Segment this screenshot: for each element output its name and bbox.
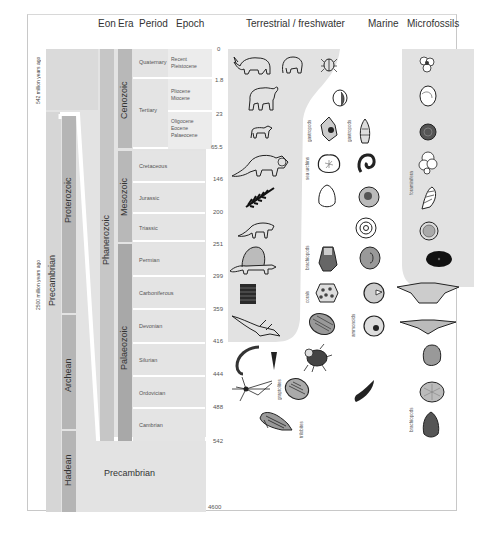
ammonite-spiral-icon (354, 215, 378, 241)
phanerozoic-expansion-area (46, 49, 98, 110)
period-label: Ordovician (139, 390, 165, 396)
label-2500-million: 2500 million years ago (35, 250, 41, 320)
millipede-icon (233, 344, 261, 376)
dimetrodon-icon (228, 245, 278, 277)
hadean-label: Hadean (63, 445, 73, 495)
period-label: Quaternary (139, 59, 167, 65)
tick-488: 488 (213, 404, 223, 410)
header-era: Era (118, 18, 134, 29)
foraminifera-2-icon (418, 84, 438, 108)
tick-299: 299 (213, 273, 223, 279)
foraminifera-5-icon (418, 185, 438, 211)
label-foraminifera: foraminifera (409, 165, 414, 195)
period-jurassic: Jurassic (133, 183, 205, 214)
epoch-miocene: Miocene (168, 95, 212, 102)
dinosaur-icon (236, 218, 276, 240)
epoch-pliocene: Pliocene (168, 88, 212, 95)
label-gastropods-2: gastropods (347, 112, 352, 142)
fish-amphibian-icon (230, 312, 282, 340)
palaeozoic-label: Palaeozoic (119, 320, 129, 375)
label-graptolites: graptolites (277, 370, 282, 400)
header-microfossils: Microfossils (407, 18, 459, 29)
orthocone-icon (352, 378, 378, 404)
period-silurian: Silurian (133, 344, 205, 377)
period-cretaceous: Cretaceous (133, 151, 205, 183)
trilobite-fossil-icon (307, 311, 337, 337)
brachiopod-micro-3-icon (420, 410, 442, 440)
epochs-quaternary: Recent Pleistocene (168, 49, 212, 79)
epoch-recent: Recent (168, 56, 212, 63)
period-label: Triassic (139, 225, 158, 231)
ammonite-4-icon (362, 313, 386, 339)
foraminifera-7-icon (425, 250, 453, 268)
phanerozoic-label: Phanerozoic (101, 195, 111, 285)
tick-416: 416 (213, 338, 223, 344)
tick-0: 0 (217, 46, 220, 52)
brachiopod-wide-2-icon (398, 318, 458, 336)
header-eon: Eon (98, 18, 116, 29)
period-cambrian: Cambrian (133, 409, 205, 441)
period-label: Tertiary (139, 107, 157, 113)
brachiopod-micro-2-icon (418, 380, 446, 404)
period-label: Cretaceous (139, 163, 167, 169)
mesozoic-label: Mesozoic (119, 172, 129, 222)
foraminifera-4-icon (417, 150, 439, 176)
epochs-tertiary-lower: Oligocene Eocene Palaeocene (168, 112, 212, 149)
label-brachiopods: brachiopods (305, 238, 310, 270)
label-542-million: 542 million years ago (35, 47, 41, 113)
beetle-icon (321, 55, 337, 73)
ammonite-3-icon (362, 280, 386, 306)
mammoth-small-icon (279, 53, 305, 77)
header-terrestrial: Terrestrial / freshwater (246, 18, 345, 29)
curled-shell-icon (355, 152, 377, 176)
precambrian-block-label: Precambrian (104, 468, 155, 478)
mammoth-icon (245, 82, 281, 112)
period-tertiary: Tertiary (133, 79, 169, 149)
tick-359: 359 (213, 306, 223, 312)
trilobite-icon (258, 408, 294, 434)
period-quaternary: Quaternary (133, 49, 169, 79)
cenozoic-label: Cenozoic (119, 75, 129, 125)
period-devonian: Devonian (133, 310, 205, 344)
sea-scorpion-icon (230, 375, 276, 403)
label-brachiopods-micro: brachiopods (409, 400, 414, 432)
period-label: Silurian (139, 357, 157, 363)
sea-urchin-2-icon (316, 183, 338, 209)
tick-444: 444 (213, 371, 223, 377)
tick-251: 251 (213, 241, 223, 247)
tick-542: 542 (213, 438, 223, 444)
ammonite-2-icon (358, 245, 382, 271)
fern-icon (244, 185, 276, 209)
label-gastropods: gastropods (307, 112, 312, 142)
brachiopod-wide-1-icon (395, 281, 461, 307)
tick-4600: 4600 (208, 504, 221, 510)
horsetail-icon (238, 282, 258, 306)
triceratops-icon (230, 150, 290, 180)
header-period: Period (139, 18, 168, 29)
epoch-pleistocene: Pleistocene (168, 63, 212, 70)
gastropod-spiral-icon (319, 115, 339, 143)
label-ammonoids: ammonoids (351, 305, 356, 337)
brachiopod-icon (317, 245, 339, 273)
trilobite-oval-icon (283, 376, 311, 402)
rhinoceros-icon (232, 52, 274, 76)
period-triassic: Triassic (133, 214, 205, 242)
period-permian: Permian (133, 244, 205, 277)
epoch-palaeocene: Palaeocene (168, 132, 212, 139)
epoch-eocene: Eocene (168, 125, 212, 132)
ammonite-1-icon (357, 185, 381, 209)
foraminifera-6-icon (418, 220, 440, 242)
label-sea-urchins: sea urchins (305, 150, 310, 180)
sea-urchin-icon (316, 152, 342, 176)
tick-146: 146 (213, 176, 223, 182)
graptolite-cone-icon (270, 350, 278, 372)
tick-23: 23 (216, 111, 223, 117)
period-carboniferous: Carboniferous (133, 277, 205, 310)
label-corals: corals (305, 283, 310, 303)
tick-1.8: 1.8 (215, 77, 223, 83)
header-epoch: Epoch (176, 18, 204, 29)
period-label: Cambrian (139, 422, 163, 428)
tick-200: 200 (213, 209, 223, 215)
label-trilobites: trilobites (299, 410, 304, 438)
header-marine: Marine (368, 18, 399, 29)
